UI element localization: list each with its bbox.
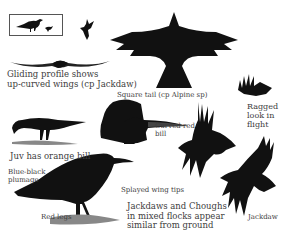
curved-bill-caption: Curved red bill (155, 122, 195, 138)
splayed-caption: Splayed wing tips (121, 186, 184, 194)
ragged-caption: Ragged look in flight (247, 102, 278, 129)
chough-and-jackdaw-icon (10, 15, 62, 35)
red-legs-caption: Red legs (41, 213, 72, 221)
jackdaw-caption: Jackdaw (248, 213, 278, 221)
small-flying-chough-icon (78, 18, 96, 42)
mixed-flocks-caption: Jackdaws and Choughs in mixed flocks app… (127, 202, 227, 231)
gliding-profile-icon (8, 55, 112, 69)
juv-caption: Juv has orange bill (10, 152, 90, 162)
ragged-flying-chough-icon (236, 70, 276, 100)
inset-size-comparison (9, 14, 63, 36)
juvenile-chough-icon (8, 108, 88, 148)
jackdaw-flight-icon (218, 134, 280, 222)
gliding-caption: Gliding profile shows up-curved wings (c… (7, 70, 137, 89)
blue-black-caption: Blue-black plumage (8, 168, 45, 184)
square-tail-caption: Square tail (cp Alpine sp) (117, 91, 207, 99)
